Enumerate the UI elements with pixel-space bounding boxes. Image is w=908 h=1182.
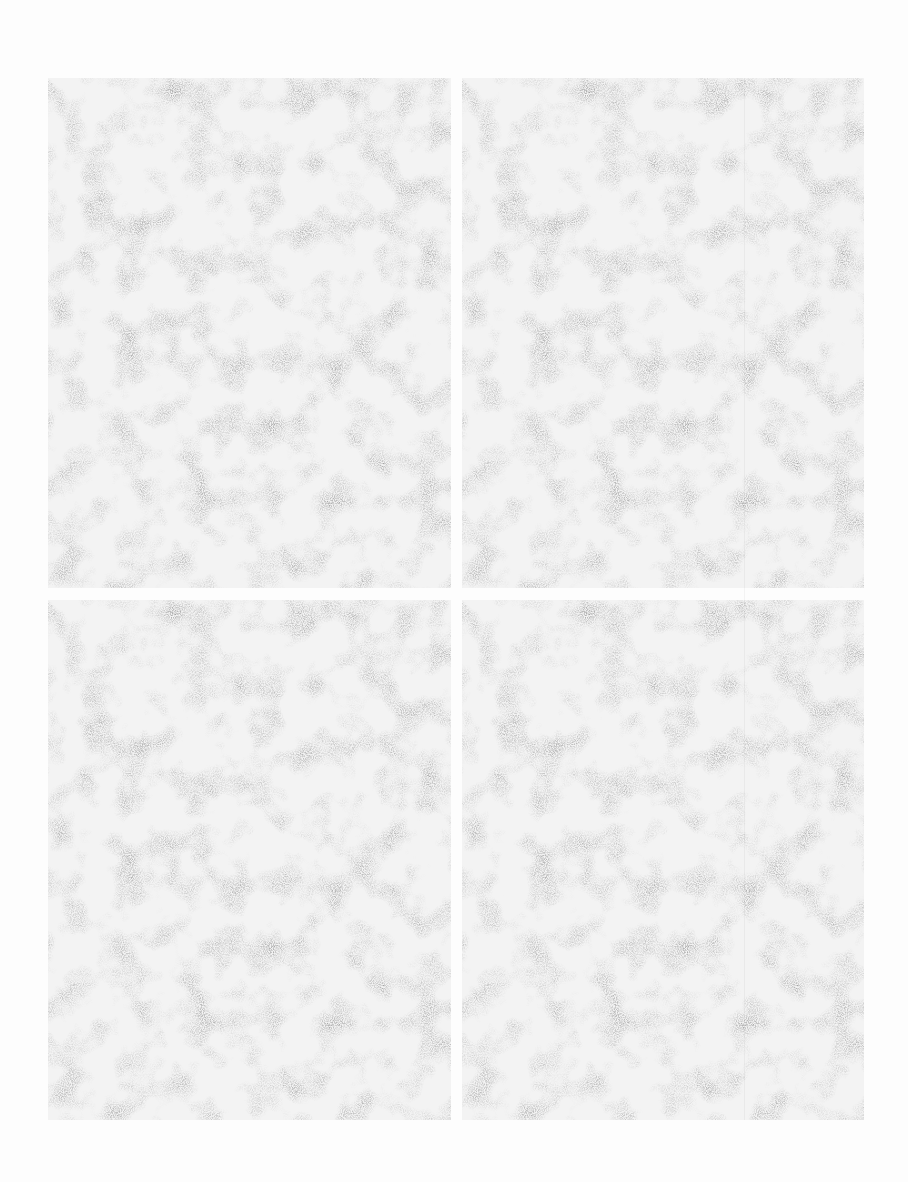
panel-bottom-left xyxy=(48,600,451,1120)
fold-line xyxy=(744,78,745,1120)
panel-top-left xyxy=(48,78,451,588)
scanned-page xyxy=(0,0,908,1182)
panel-top-right xyxy=(462,78,864,588)
panel-bottom-right xyxy=(462,600,864,1120)
